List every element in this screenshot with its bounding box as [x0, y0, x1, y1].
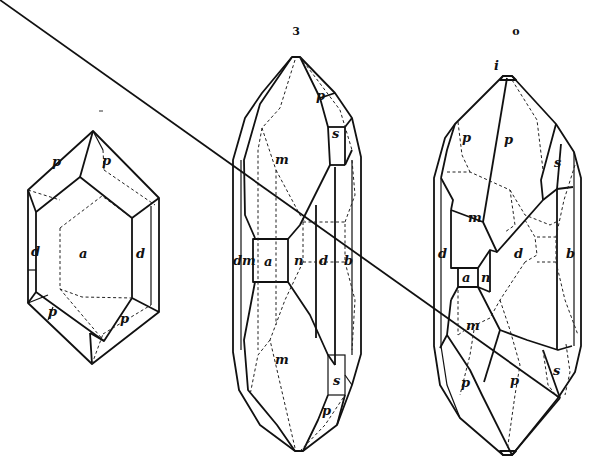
- figure-mark: o: [512, 25, 519, 38]
- face-label-s: s: [554, 155, 562, 170]
- face-label-a: a: [79, 246, 87, 261]
- face-label-p: p: [461, 375, 470, 390]
- crystal-middle: 3: [233, 25, 361, 451]
- face-label-p: p: [504, 132, 513, 147]
- face-label-n: n: [294, 253, 303, 268]
- face-label-p: p: [316, 88, 325, 103]
- face-label-s: s: [332, 126, 340, 141]
- crystal-left: p p d a d p p: [28, 131, 159, 364]
- face-label-s: s: [333, 373, 341, 388]
- face-label-a: a: [264, 254, 272, 269]
- face-label-m: m: [468, 210, 482, 225]
- face-label-p: p: [120, 311, 129, 326]
- face-label-d: d: [31, 244, 40, 259]
- face-label-p: p: [48, 304, 57, 319]
- face-label-a: a: [462, 270, 470, 285]
- face-label-p: p: [102, 153, 111, 168]
- face-label-m: m: [275, 152, 289, 167]
- face-label-d: d: [514, 246, 523, 261]
- face-label-d: d: [438, 246, 447, 261]
- face-label-d: d: [136, 246, 145, 261]
- crystal-figure: p p d a d p p 3: [0, 0, 604, 464]
- face-label-p: p: [52, 154, 61, 169]
- crystal-right: o i: [0, 0, 581, 455]
- face-label-dm: dm: [233, 253, 256, 268]
- face-label-b: b: [344, 253, 353, 268]
- face-label-p: p: [510, 373, 519, 388]
- face-label-d: d: [319, 253, 328, 268]
- face-label-p: p: [322, 403, 331, 418]
- figure-mark: 3: [292, 25, 300, 38]
- face-label-m: m: [275, 352, 289, 367]
- face-label-s: s: [553, 363, 561, 378]
- face-label-m: m: [466, 318, 480, 333]
- face-label-b: b: [566, 246, 575, 261]
- face-label-n: n: [481, 270, 490, 285]
- face-label-p: p: [462, 130, 471, 145]
- face-label-i: i: [494, 58, 499, 73]
